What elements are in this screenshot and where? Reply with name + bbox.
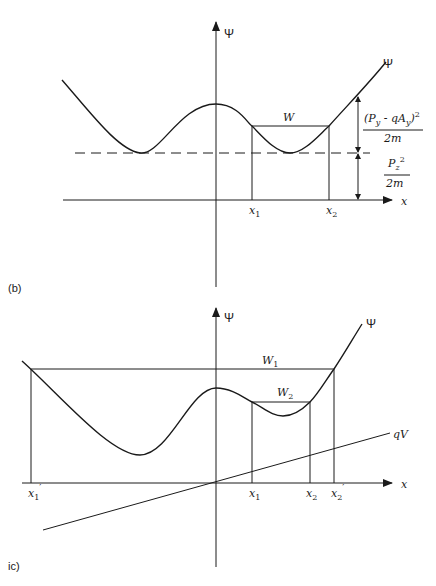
panel-label-c: ic) <box>8 560 20 572</box>
panel-c: Ψ x qV Ψ W1 W2 x1′ x1 x2 x2′ ic) <box>8 308 409 572</box>
energy-level-w2-label: W2 <box>277 386 293 401</box>
potential-diagrams: Ψ x Ψ W x1 x2 (Py - qAy)2 2m Pz2 2m (b) <box>0 0 436 586</box>
potential-label: qV <box>393 428 409 441</box>
annotation-transverse-energy: (Py - qAy)2 2m <box>363 110 423 145</box>
energy-level-w1-label: W1 <box>262 354 278 369</box>
curve-label: Ψ <box>383 57 393 71</box>
turning-point-x2-label: x2 <box>306 487 317 502</box>
annotation-longitudinal-energy: Pz2 2m <box>384 155 410 190</box>
curve-label: Ψ <box>366 317 376 331</box>
annotation-bottom-numerator: Pz2 <box>387 155 405 172</box>
energy-level-label: W <box>283 111 296 124</box>
y-axis-label: Ψ <box>224 311 234 325</box>
turning-point-x2p-label: x2′ <box>331 483 344 502</box>
panel-b: Ψ x Ψ W x1 x2 (Py - qAy)2 2m Pz2 2m (b) <box>8 22 423 294</box>
annotation-top-numerator: (Py - qAy)2 <box>364 110 420 127</box>
turning-point-x2-label: x2 <box>326 204 337 219</box>
annotation-bottom-denominator: 2m <box>385 177 403 190</box>
turning-point-x1p-label: x1′ <box>28 483 41 502</box>
panel-label-b: (b) <box>8 282 21 294</box>
turning-point-x1-label: x1 <box>249 487 260 502</box>
x-axis-label: x <box>401 478 408 491</box>
potential-curve <box>22 324 362 455</box>
potential-curve <box>62 62 386 153</box>
x-axis-label: x <box>401 195 408 208</box>
y-axis-label: Ψ <box>224 27 234 41</box>
annotation-top-denominator: 2m <box>383 132 401 145</box>
turning-point-x1-label: x1 <box>249 204 260 219</box>
